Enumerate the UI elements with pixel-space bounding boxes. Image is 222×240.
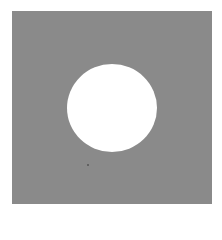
white-circle-hole bbox=[67, 64, 157, 152]
speck-mark bbox=[87, 164, 89, 166]
